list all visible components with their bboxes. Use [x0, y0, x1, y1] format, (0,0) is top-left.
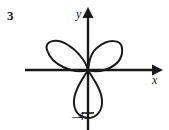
polar-rose-figure: 3 y x –4: [0, 0, 169, 130]
plot-canvas: [0, 0, 169, 130]
rose-petal-upper-right: [88, 41, 122, 71]
y-axis-label: y: [76, 8, 81, 20]
x-axis: [25, 65, 163, 76]
y-axis-tick-label-neg4: –4: [72, 110, 84, 122]
x-axis-label: x: [152, 74, 157, 86]
y-axis-arrowhead-icon: [83, 7, 94, 18]
rose-petal-upper-left: [47, 41, 88, 71]
rose-curve: [47, 41, 123, 118]
